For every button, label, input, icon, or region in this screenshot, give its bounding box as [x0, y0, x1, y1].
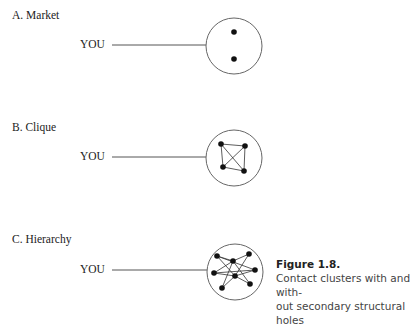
panel-a-node [231, 29, 237, 35]
panel-b-edge [221, 144, 223, 167]
panel-a-cluster-circle [206, 18, 262, 74]
panel-c-node [219, 285, 225, 291]
panel-b-edge [221, 144, 245, 146]
caption-line-1: Contact clusters with and with- [276, 271, 420, 299]
figure-caption: Figure 1.8. Contact clusters with and wi… [276, 257, 420, 327]
panel-c-node [252, 267, 258, 273]
panel-c-node [214, 253, 220, 259]
panel-b-node [241, 168, 247, 174]
panel-b-node [220, 164, 226, 170]
panel-c-node [247, 281, 253, 287]
panel-c-node [211, 270, 217, 276]
panel-c-node [246, 251, 252, 257]
panel-a-node [231, 56, 237, 62]
panel-b-cluster-circle [206, 130, 262, 186]
panel-c-node [230, 258, 236, 264]
panel-b-node [218, 141, 224, 147]
panel-c-edge [214, 273, 235, 276]
panel-b-edge [223, 146, 245, 167]
panel-c-node [232, 273, 238, 279]
caption-line-2: out secondary structural holes [276, 299, 420, 327]
caption-title: Figure 1.8. [276, 257, 420, 271]
panel-b-edge [244, 146, 245, 171]
panel-b-node [242, 143, 248, 149]
